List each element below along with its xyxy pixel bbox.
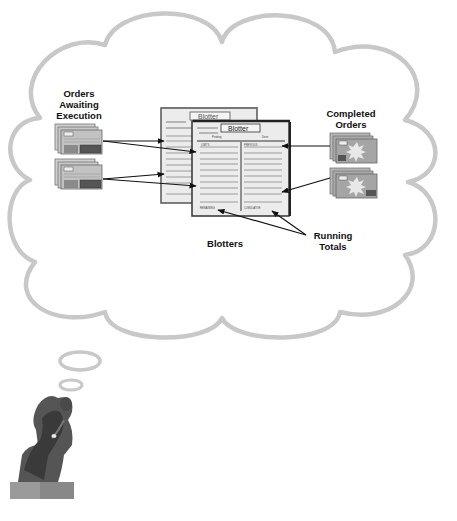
- svg-text:Pending: Pending: [212, 135, 222, 139]
- svg-text:Done: Done: [262, 135, 269, 139]
- completed-orders-line-2: Orders: [320, 119, 382, 130]
- completed-order-tickets-1: [330, 133, 377, 163]
- svg-text:CUMULATIVE: CUMULATIVE: [244, 206, 261, 210]
- svg-text:Blotter: Blotter: [228, 125, 249, 132]
- running-totals-line-1: Running: [302, 230, 364, 241]
- svg-text:LIMITS: LIMITS: [201, 143, 210, 147]
- thought-diagram: Blotter Blotter Pending Done LIMITS PREV…: [0, 0, 457, 521]
- running-totals-label: Running Totals: [302, 230, 364, 252]
- completed-orders-label: Completed Orders: [320, 108, 382, 130]
- svg-text:REMAINING: REMAINING: [200, 206, 215, 210]
- orders-awaiting-line-3: Execution: [50, 110, 108, 121]
- thought-bubble-large: [60, 352, 100, 370]
- blotter-front: Blotter Pending Done LIMITS PREVIOUS REM…: [192, 121, 290, 216]
- pending-order-tickets-1: [55, 124, 102, 154]
- blotters-label: Blotters: [200, 238, 250, 249]
- orders-awaiting-line-1: Orders: [50, 88, 108, 99]
- svg-text:PREVIOUS: PREVIOUS: [244, 143, 258, 147]
- svg-text:Blotter: Blotter: [198, 113, 219, 120]
- orders-awaiting-label: Orders Awaiting Execution: [50, 88, 108, 121]
- completed-orders-line-1: Completed: [320, 108, 382, 119]
- running-totals-line-2: Totals: [302, 241, 364, 252]
- orders-awaiting-line-2: Awaiting: [50, 99, 108, 110]
- completed-order-tickets-2: [330, 168, 377, 198]
- pending-order-tickets-2: [55, 159, 102, 189]
- thinker-statue-icon: [10, 396, 74, 499]
- thought-bubble-small: [60, 380, 82, 390]
